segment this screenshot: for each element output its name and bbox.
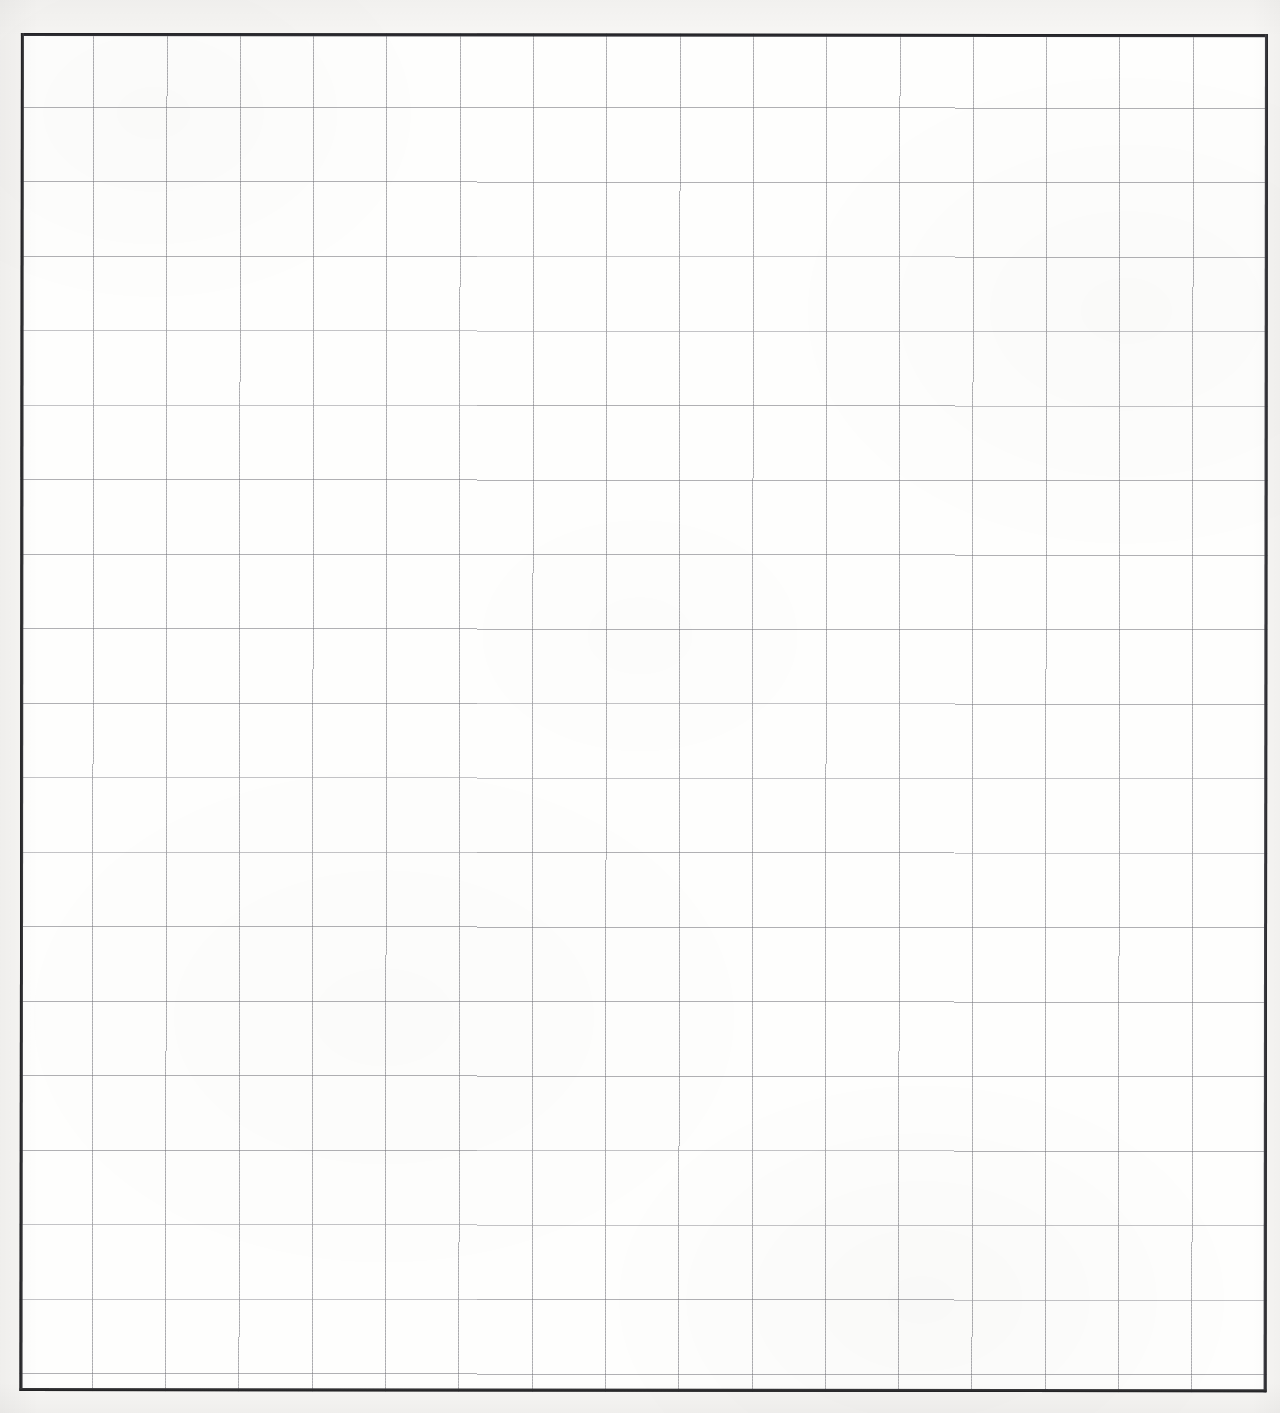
grid-field <box>20 33 1268 1392</box>
scan-skew-wrapper <box>0 0 1280 1413</box>
grid-rules <box>20 33 1268 1392</box>
scanned-page: A scanned blank sheet of squared graph p… <box>0 0 1280 1413</box>
